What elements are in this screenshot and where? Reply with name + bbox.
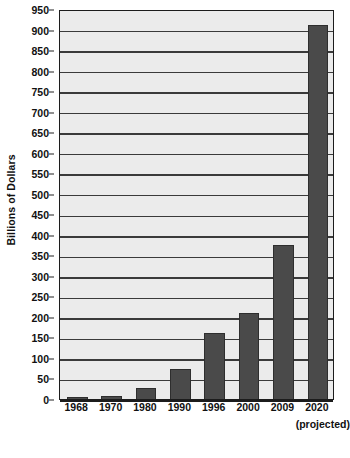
x-axis-tick-label-2000: 2000 xyxy=(236,402,259,413)
y-axis-tick-label: 100 xyxy=(31,354,49,365)
bar-1996 xyxy=(204,333,225,399)
y-axis-tick-label: 900 xyxy=(31,25,49,36)
y-axis-tick-mark xyxy=(49,194,54,195)
x-axis-tick-label-1970: 1970 xyxy=(99,402,122,413)
y-axis-tick-label: 750 xyxy=(31,87,49,98)
y-axis-tick-mark xyxy=(49,10,54,11)
bar-1970 xyxy=(101,396,122,399)
y-axis-tick-label: 450 xyxy=(31,210,49,221)
y-axis-tick-mark xyxy=(49,153,54,154)
y-axis-tick-label: 400 xyxy=(31,231,49,242)
x-axis-tick-labels: 19681970198019901996200020092020 xyxy=(59,402,334,422)
y-axis-tick-mark xyxy=(49,30,54,31)
y-axis-tick-mark xyxy=(49,133,54,134)
bar-2020 xyxy=(308,25,329,399)
bar-1990 xyxy=(170,369,191,399)
y-axis-tick-labels: 0501001502002503003504004505005506006507… xyxy=(22,10,54,400)
y-axis-tick-label: 500 xyxy=(31,189,49,200)
x-axis-tick-label-2020: 2020 xyxy=(305,402,328,413)
y-axis-tick-mark xyxy=(49,317,54,318)
y-axis-tick-mark xyxy=(49,71,54,72)
bar-1980 xyxy=(136,388,157,399)
y-axis-tick-label: 350 xyxy=(31,251,49,262)
y-axis-tick-mark xyxy=(49,358,54,359)
y-axis-title: Billions of Dollars xyxy=(0,0,22,400)
y-axis-tick-mark xyxy=(49,112,54,113)
y-axis-tick-label: 650 xyxy=(31,128,49,139)
y-axis-tick-label: 300 xyxy=(31,272,49,283)
x-axis-projected-note: (projected) xyxy=(296,418,350,430)
y-axis-tick-mark xyxy=(49,379,54,380)
y-axis-tick-label: 700 xyxy=(31,107,49,118)
y-axis-tick-mark xyxy=(49,338,54,339)
y-axis-tick-label: 250 xyxy=(31,292,49,303)
y-axis-tick-mark xyxy=(49,256,54,257)
bars-layer xyxy=(60,11,333,399)
bar-2000 xyxy=(239,313,260,399)
y-axis-tick-mark xyxy=(49,400,54,401)
y-axis-tick-mark xyxy=(49,51,54,52)
y-axis-tick-label: 550 xyxy=(31,169,49,180)
bar-1968 xyxy=(67,397,88,399)
x-axis-tick-label-1990: 1990 xyxy=(168,402,191,413)
y-axis-tick-mark xyxy=(49,276,54,277)
y-axis-tick-mark xyxy=(49,235,54,236)
y-axis-tick-label: 850 xyxy=(31,46,49,57)
y-axis-tick-mark xyxy=(49,215,54,216)
bar-2009 xyxy=(273,245,294,399)
y-axis-tick-label: 800 xyxy=(31,66,49,77)
y-axis-title-text: Billions of Dollars xyxy=(5,154,17,245)
y-axis-tick-label: 950 xyxy=(31,5,49,16)
x-axis-tick-label-1996: 1996 xyxy=(202,402,225,413)
y-axis-tick-mark xyxy=(49,174,54,175)
y-axis-tick-label: 200 xyxy=(31,313,49,324)
x-axis-tick-label-1980: 1980 xyxy=(133,402,156,413)
y-axis-tick-label: 150 xyxy=(31,333,49,344)
y-axis-tick-label: 50 xyxy=(37,374,49,385)
y-axis-tick-label: 600 xyxy=(31,148,49,159)
x-axis-tick-label-2009: 2009 xyxy=(271,402,294,413)
x-axis-tick-label-1968: 1968 xyxy=(65,402,88,413)
y-axis-tick-mark xyxy=(49,297,54,298)
plot-area xyxy=(59,10,334,400)
y-axis-tick-mark xyxy=(49,92,54,93)
